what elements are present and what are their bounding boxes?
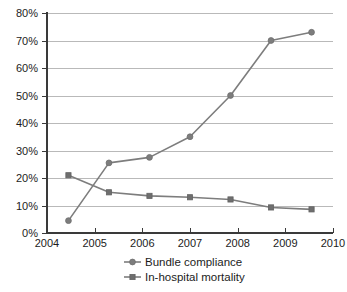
data-point-bundle-compliance-1 — [106, 160, 112, 166]
chart-svg: 0%10%20%30%40%50%60%70%80% 2004200520062… — [0, 0, 347, 292]
data-point-in-hospital-mortality-1 — [106, 190, 111, 195]
y-tick-label-40: 40% — [16, 117, 38, 129]
y-axis-tick-labels: 0%10%20%30%40%50%60%70%80% — [16, 7, 38, 239]
legend-marker-bundle-compliance — [130, 259, 136, 265]
chart-legend: Bundle complianceIn-hospital mortality — [124, 256, 245, 283]
x-tick-label-2008: 2008 — [225, 237, 249, 249]
data-point-in-hospital-mortality-2 — [147, 193, 152, 198]
legend-marker-in-hospital-mortality — [130, 274, 135, 279]
data-point-in-hospital-mortality-6 — [309, 207, 314, 212]
y-tick-label-50: 50% — [16, 90, 38, 102]
legend-label-in-hospital-mortality: In-hospital mortality — [145, 271, 245, 283]
x-tick-label-2010: 2010 — [321, 237, 345, 249]
x-tick-label-2009: 2009 — [273, 237, 297, 249]
data-point-in-hospital-mortality-4 — [228, 197, 233, 202]
gridlines — [47, 14, 333, 207]
series-line-bundle-compliance — [68, 32, 311, 220]
x-tick-label-2004: 2004 — [35, 237, 59, 249]
data-point-bundle-compliance-6 — [309, 29, 315, 35]
y-tick-label-10: 10% — [16, 200, 38, 212]
line-chart: 0%10%20%30%40%50%60%70%80% 2004200520062… — [0, 0, 347, 292]
data-point-in-hospital-mortality-3 — [187, 195, 192, 200]
data-point-bundle-compliance-0 — [66, 218, 72, 224]
x-tick-label-2006: 2006 — [130, 237, 154, 249]
x-tick-label-2005: 2005 — [82, 237, 106, 249]
x-tick-label-2007: 2007 — [178, 237, 202, 249]
data-point-bundle-compliance-2 — [147, 154, 153, 160]
data-point-in-hospital-mortality-0 — [66, 173, 71, 178]
data-point-bundle-compliance-4 — [228, 93, 234, 99]
data-point-in-hospital-mortality-5 — [268, 205, 273, 210]
legend-item-bundle-compliance: Bundle compliance — [124, 256, 242, 268]
data-point-bundle-compliance-3 — [187, 134, 193, 140]
legend-label-bundle-compliance: Bundle compliance — [145, 256, 242, 268]
y-tick-label-60: 60% — [16, 62, 38, 74]
y-tick-label-70: 70% — [16, 35, 38, 47]
y-tick-label-30: 30% — [16, 145, 38, 157]
series-line-in-hospital-mortality — [68, 175, 311, 209]
axes — [42, 12, 334, 234]
y-tick-label-80: 80% — [16, 7, 38, 19]
data-point-bundle-compliance-5 — [268, 38, 274, 44]
legend-item-in-hospital-mortality: In-hospital mortality — [124, 271, 245, 283]
data-series — [66, 29, 315, 223]
x-axis-tick-labels: 2004200520062007200820092010 — [35, 237, 345, 249]
y-tick-label-20: 20% — [16, 172, 38, 184]
